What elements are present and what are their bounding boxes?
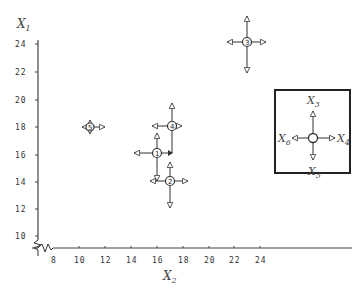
x-axis: 8 10 12 14 16 18 20 22 24 X2 (32, 244, 352, 285)
search-point-1: 1 (134, 133, 173, 181)
y-axis: 24 22 20 18 16 14 12 10 X1 (15, 17, 41, 256)
x-tick-10: 10 (74, 256, 86, 265)
search-point-2: 2 (150, 162, 188, 208)
y-tick-10: 10 (15, 232, 27, 241)
search-point-5: 5 (82, 120, 105, 134)
point-label: 3 (245, 39, 249, 47)
legend-center-icon (309, 134, 318, 143)
x-tick-8: 8 (51, 256, 57, 265)
direction-legend: X3 X4 X5 X6 (275, 90, 350, 180)
search-diagram: 24 22 20 18 16 14 12 10 X1 8 10 12 14 16… (0, 0, 364, 295)
point-label: 5 (88, 124, 92, 132)
y-tick-12: 12 (15, 205, 27, 214)
x-tick-14: 14 (126, 256, 138, 265)
x-tick-16: 16 (152, 256, 164, 265)
x-tick-20: 20 (204, 256, 216, 265)
y-tick-20: 20 (15, 96, 27, 105)
x-tick-24: 24 (255, 256, 267, 265)
y-tick-14: 14 (15, 178, 27, 187)
search-point-3: 3 (227, 16, 266, 73)
x-tick-22: 22 (229, 256, 241, 265)
x-axis-title: X2 (162, 269, 177, 285)
x-tick-12: 12 (100, 256, 112, 265)
y-axis-title: X1 (16, 17, 31, 33)
y-tick-16: 16 (15, 151, 27, 160)
y-tick-18: 18 (15, 123, 27, 132)
point-label: 4 (170, 123, 175, 131)
y-tick-22: 22 (15, 68, 27, 77)
point-label: 2 (168, 178, 172, 186)
point-label: 1 (155, 150, 159, 158)
y-tick-24: 24 (15, 40, 27, 49)
x-tick-18: 18 (178, 256, 190, 265)
